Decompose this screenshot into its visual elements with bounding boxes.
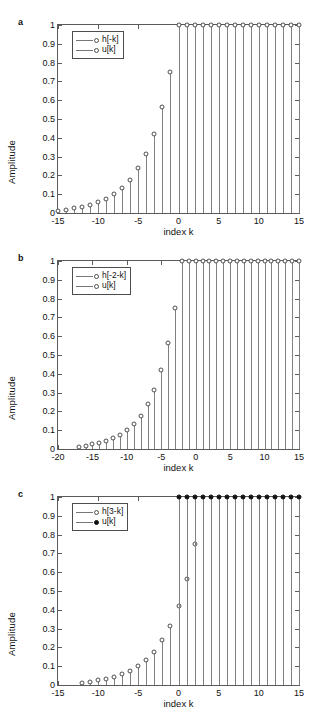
data-point-marker [264, 23, 269, 28]
x-axis-tick-label: -10 [92, 216, 105, 226]
y-axis-tick-label: 0.1 [42, 661, 55, 671]
data-point-marker [297, 495, 302, 500]
x-axis-tick-label: 5 [216, 216, 221, 226]
open-circle-icon [94, 510, 99, 515]
stem-line [134, 424, 135, 449]
filled-circle-icon [94, 520, 99, 525]
stem-line [138, 168, 139, 213]
y-axis-tick-mark [295, 449, 299, 450]
data-point-marker [152, 131, 157, 136]
data-point-marker [255, 259, 260, 264]
data-point-marker [88, 203, 93, 208]
y-axis-tick-mark [58, 355, 62, 356]
data-point-marker [111, 436, 116, 441]
y-axis-tick-mark [58, 411, 62, 412]
data-point-marker [200, 23, 205, 28]
y-axis-tick-label: 0.5 [42, 350, 55, 360]
legend-line-swatch [76, 522, 93, 523]
data-point-marker [214, 259, 219, 264]
x-axis-tick-label: 0 [193, 452, 198, 462]
y-axis-tick-mark [58, 629, 62, 630]
legend-line-swatch [76, 40, 93, 41]
stem-line [170, 626, 171, 685]
data-point-marker [88, 679, 93, 684]
stem-line [223, 261, 224, 449]
stem-line [195, 497, 196, 685]
y-axis-tick-mark [58, 553, 62, 554]
y-axis-tick-label: 0.7 [42, 76, 55, 86]
legend-entry: u[k] [76, 517, 123, 527]
x-axis-tick-mark [58, 261, 59, 265]
stem-line [235, 497, 236, 685]
x-axis-tick-mark [58, 681, 59, 685]
x-axis-tick-label: -10 [92, 688, 105, 698]
data-point-marker [136, 664, 141, 669]
data-point-marker [104, 676, 109, 681]
x-axis-tick-label: 10 [254, 688, 264, 698]
data-point-marker [283, 259, 288, 264]
y-axis-tick-mark [58, 430, 62, 431]
data-point-marker [248, 23, 253, 28]
x-axis-tick-mark [138, 25, 139, 29]
x-axis-tick-mark [58, 25, 59, 29]
y-axis-label-b: Amplitude [6, 333, 17, 463]
plot-area-c: 00.10.20.30.40.50.60.70.80.91-15-10-5051… [57, 496, 300, 686]
y-axis-tick-mark [58, 194, 62, 195]
data-point-marker [280, 23, 285, 28]
y-axis-tick-mark [58, 393, 62, 394]
y-axis-tick-label: 0.3 [42, 152, 55, 162]
legend: h[-2-k]u[k] [72, 267, 131, 295]
data-point-marker [179, 259, 184, 264]
stem-plot-panel-b: b Amplitude 00.10.20.30.40.50.60.70.80.9… [0, 236, 314, 474]
stem-line [299, 25, 300, 213]
y-axis-tick-label: 0.7 [42, 312, 55, 322]
x-axis-tick-mark [58, 445, 59, 449]
stem-line [168, 343, 169, 449]
stem-line [243, 497, 244, 685]
data-point-marker [168, 70, 173, 75]
legend-line-swatch [76, 512, 93, 513]
stem-line [278, 261, 279, 449]
y-axis-tick-label: 0.1 [42, 425, 55, 435]
x-axis-tick-label: -5 [134, 688, 142, 698]
stem-line [271, 261, 272, 449]
open-circle-icon [94, 38, 99, 43]
data-point-marker [240, 23, 245, 28]
data-point-marker [276, 259, 281, 264]
stem-line [237, 261, 238, 449]
y-axis-tick-mark [58, 213, 62, 214]
y-axis-tick-label: 0.5 [42, 586, 55, 596]
data-point-marker [200, 495, 205, 500]
stem-line [219, 25, 220, 213]
stem-line [251, 25, 252, 213]
y-axis-tick-label: 0.8 [42, 294, 55, 304]
stem-line [203, 261, 204, 449]
stem-line [267, 25, 268, 213]
stem-line [299, 261, 300, 449]
stem-line [291, 497, 292, 685]
y-axis-tick-mark [58, 516, 62, 517]
stem-line [259, 25, 260, 213]
data-point-marker [240, 495, 245, 500]
stem-line [179, 25, 180, 213]
y-axis-tick-mark [58, 157, 62, 158]
stem-line [182, 261, 183, 449]
data-point-marker [272, 495, 277, 500]
x-axis-tick-mark [58, 497, 59, 501]
panel-letter-b: b [18, 253, 24, 263]
data-point-marker [224, 23, 229, 28]
stem-line [235, 25, 236, 213]
data-point-marker [184, 23, 189, 28]
stem-line [285, 261, 286, 449]
data-point-marker [184, 495, 189, 500]
y-axis-tick-label: 0.2 [42, 406, 55, 416]
legend-label: u[k] [102, 516, 116, 527]
y-axis-tick-mark [58, 44, 62, 45]
legend-entry: u[k] [76, 45, 119, 55]
y-axis-tick-label: 1 [50, 256, 55, 266]
legend-line-swatch [76, 286, 93, 287]
stem-line [209, 261, 210, 449]
stem-line [211, 497, 212, 685]
y-axis-tick-label: 0.9 [42, 275, 55, 285]
data-point-marker [248, 495, 253, 500]
